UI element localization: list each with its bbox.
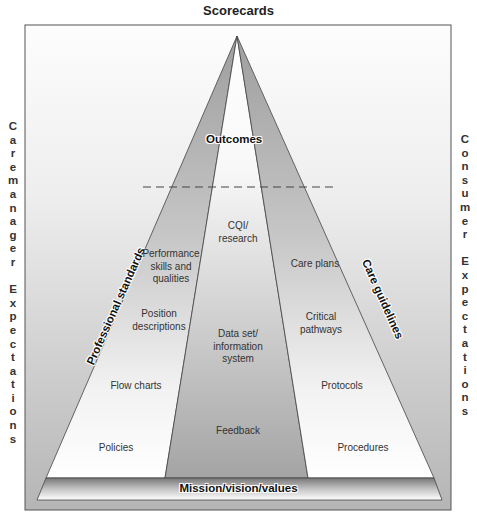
item-performance-skills: Performance skills and qualities — [136, 248, 206, 286]
item-procedures: Procedures — [323, 442, 403, 455]
item-data-set: Data set/ information system — [206, 328, 270, 366]
item-care-plans: Care plans — [290, 258, 340, 271]
item-policies: Policies — [76, 442, 156, 455]
mission-vision-values-label: Mission/vision/values — [0, 482, 477, 494]
item-protocols: Protocols — [302, 380, 382, 393]
item-flow-charts: Flow charts — [96, 380, 176, 393]
outcomes-label: Outcomes — [206, 133, 262, 145]
item-cqi-research: CQI/ research — [213, 220, 263, 245]
pyramid-diagram — [0, 0, 477, 523]
item-critical-pathways: Critical pathways — [290, 311, 352, 336]
item-position-descriptions: Position descriptions — [124, 308, 194, 333]
left-side-label: CaremanagerExpectations — [2, 120, 24, 446]
right-side-label: ConsumerExpectations — [454, 133, 476, 418]
item-feedback: Feedback — [198, 425, 278, 438]
